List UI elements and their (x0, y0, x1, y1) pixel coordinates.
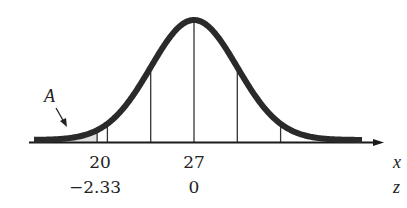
x-label-27: 27 (183, 152, 205, 172)
reference-lines (97, 22, 280, 142)
x-label-20: 20 (89, 152, 111, 172)
area-label-a: A (43, 86, 56, 106)
area-arrowhead-icon (60, 118, 67, 127)
normal-curve-diagram: A 20 27 −2.33 0 x z (0, 0, 407, 208)
x-axis-variable: x (392, 152, 401, 172)
z-label-neg2-33: −2.33 (69, 177, 121, 197)
axis-arrowhead-icon (373, 139, 384, 146)
z-label-0: 0 (189, 177, 200, 197)
z-axis-variable: z (392, 177, 400, 197)
normal-curve (34, 20, 362, 140)
